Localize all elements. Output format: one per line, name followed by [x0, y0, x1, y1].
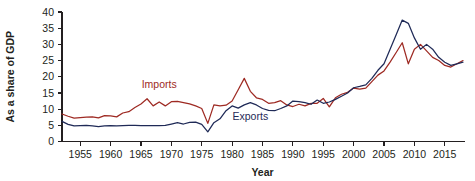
x-tick-label: 1975	[190, 148, 214, 160]
y-tick-label: 10	[42, 103, 54, 115]
x-axis-title: Year	[251, 166, 273, 178]
y-axis-title: As a share of GDP	[4, 31, 16, 123]
y-tick-label: 15	[42, 87, 54, 99]
x-tick-label: 1990	[281, 148, 305, 160]
y-tick-label: 40	[42, 6, 54, 18]
x-tick-label: 1955	[69, 148, 93, 160]
y-tick-label: 25	[42, 54, 54, 66]
x-tick-label: 1965	[129, 148, 153, 160]
x-tick-label: 1970	[160, 148, 184, 160]
y-tick-label: 30	[42, 38, 54, 50]
x-tick-label: 1985	[251, 148, 275, 160]
x-tick-label: 2010	[403, 148, 427, 160]
y-tick-label: 20	[42, 70, 54, 82]
chart-figure: 0510152025303540195519601965197019751980…	[0, 0, 475, 181]
y-tick-label: 0	[48, 135, 54, 147]
y-tick-label: 5	[48, 119, 54, 131]
x-tick-label: 2000	[342, 148, 366, 160]
line-chart-svg: 0510152025303540195519601965197019751980…	[0, 0, 475, 181]
y-tick-label: 35	[42, 22, 54, 34]
x-tick-label: 2015	[433, 148, 457, 160]
series-label-imports: Imports	[142, 78, 177, 90]
x-tick-label: 2005	[372, 148, 396, 160]
x-tick-label: 1980	[220, 148, 244, 160]
series-label-exports: Exports	[233, 110, 269, 122]
x-tick-label: 1960	[99, 148, 123, 160]
x-tick-label: 1995	[312, 148, 336, 160]
